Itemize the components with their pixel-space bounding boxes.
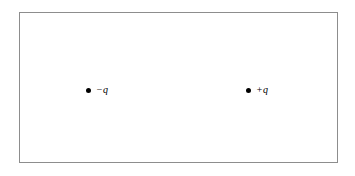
negative-charge-dot-icon (86, 88, 91, 93)
charge-positive: +q (246, 85, 268, 95)
positive-charge-label: +q (256, 85, 268, 95)
negative-charge-label: −q (96, 85, 108, 95)
figure-root: −q +q (0, 0, 355, 176)
charge-negative: −q (86, 85, 108, 95)
diagram-frame (19, 12, 338, 163)
positive-charge-dot-icon (246, 88, 251, 93)
